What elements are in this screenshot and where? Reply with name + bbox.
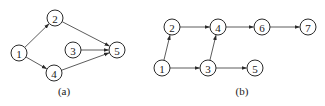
node-b-5: 5 <box>247 60 263 76</box>
node-label: 3 <box>205 63 211 75</box>
node-label: 2 <box>169 22 175 34</box>
edge-a-1-to-4 <box>26 57 47 69</box>
graph-a: 12345(a) <box>11 10 125 98</box>
node-label: 7 <box>305 22 311 34</box>
node-label: 5 <box>252 63 258 75</box>
node-a-4: 4 <box>46 65 62 81</box>
node-a-5: 5 <box>109 42 125 58</box>
directed-graphs-figure: 12345(a) 1234567(b) <box>0 0 325 106</box>
node-label: 4 <box>215 22 221 34</box>
node-b-4: 4 <box>210 19 226 35</box>
node-label: 1 <box>159 63 165 75</box>
node-label: 4 <box>51 68 57 80</box>
node-b-2: 2 <box>164 19 180 35</box>
graph-b: 1234567(b) <box>154 19 316 98</box>
node-b-1: 1 <box>154 60 170 76</box>
node-a-1: 1 <box>11 45 27 61</box>
caption-b: (b) <box>236 85 249 98</box>
node-b-6: 6 <box>254 19 270 35</box>
edge-b-3-to-4 <box>210 35 216 60</box>
node-label: 3 <box>70 45 76 57</box>
node-b-7: 7 <box>300 19 316 35</box>
edge-b-1-to-2 <box>164 35 170 60</box>
caption-a: (a) <box>58 85 71 98</box>
node-a-3: 3 <box>65 42 81 58</box>
node-label: 6 <box>259 22 265 34</box>
node-a-2: 2 <box>47 10 63 26</box>
node-label: 1 <box>16 48 22 60</box>
node-label: 2 <box>52 13 58 25</box>
node-b-3: 3 <box>200 60 216 76</box>
edge-a-1-to-2 <box>25 24 49 47</box>
node-label: 5 <box>114 45 120 57</box>
